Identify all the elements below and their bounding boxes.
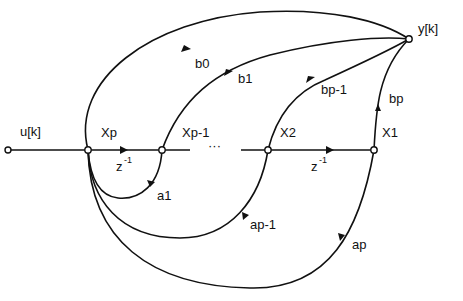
label-input: u[k] <box>20 124 41 139</box>
arrow-bp-1 <box>306 76 315 83</box>
label-delay-2-exp: -1 <box>319 155 327 165</box>
label-bp-1: bp-1 <box>321 82 347 97</box>
arrow-b0 <box>181 45 191 52</box>
label-b0: b0 <box>195 56 209 71</box>
label-ap: ap <box>352 237 366 252</box>
arrow-ap-1 <box>242 212 249 220</box>
label-x2: X2 <box>280 125 296 140</box>
node-output <box>406 36 412 42</box>
label-output: y[k] <box>418 21 438 36</box>
signal-flow-diagram: u[k] y[k] Xp Xp-1 X2 X1 ··· z -1 z -1 b0… <box>0 0 463 301</box>
label-x1: X1 <box>382 125 398 140</box>
node-xp-1 <box>159 147 165 153</box>
label-delay-1: z <box>116 159 123 174</box>
label-ap-1: ap-1 <box>250 217 276 232</box>
edge-ap-1 <box>88 150 268 238</box>
label-xp-1: Xp-1 <box>182 125 209 140</box>
delay-arrow-1 <box>120 146 128 154</box>
ellipsis: ··· <box>208 138 221 153</box>
node-xp <box>85 147 91 153</box>
edge-ap <box>88 150 374 288</box>
label-b1: b1 <box>238 71 252 86</box>
node-x2 <box>265 147 271 153</box>
label-xp: Xp <box>101 125 117 140</box>
node-input <box>5 147 11 153</box>
delay-arrow-2 <box>326 146 334 154</box>
arrow-bp <box>375 104 381 111</box>
label-a1: a1 <box>157 188 171 203</box>
label-delay-2: z <box>311 159 318 174</box>
node-x1 <box>371 147 377 153</box>
label-delay-1-exp: -1 <box>124 155 132 165</box>
label-bp: bp <box>389 91 403 106</box>
